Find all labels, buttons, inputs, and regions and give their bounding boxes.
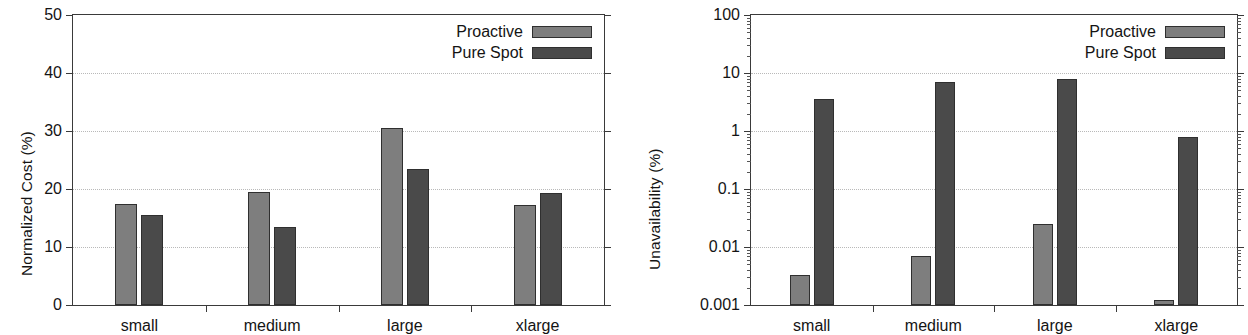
y-axis-minor-tick-right [1237, 140, 1241, 141]
y-axis-tick-right [1237, 131, 1244, 132]
gridline [73, 189, 604, 190]
y-axis-minor-tick-right [1237, 202, 1241, 203]
y-axis-tick-right [604, 189, 611, 190]
legend-swatch-proactive [1165, 26, 1225, 38]
y-axis-minor-tick [747, 137, 751, 138]
y-axis-tick [744, 189, 751, 190]
y-axis-minor-tick-right [1237, 82, 1241, 83]
y-axis-minor-tick [747, 172, 751, 173]
bar-large-pure-spot [1057, 79, 1077, 305]
bar-large-proactive [1033, 224, 1053, 305]
y-axis-minor-tick-right [1237, 114, 1241, 115]
bar-small-pure-spot [141, 215, 163, 305]
y-axis-minor-tick-right [1237, 148, 1241, 149]
y-axis-minor-tick [747, 79, 751, 80]
gridline [751, 73, 1237, 74]
y-axis-minor-tick-right [1237, 288, 1241, 289]
y-axis-tick-label: 0.1 [718, 180, 740, 198]
y-axis-minor-tick [747, 82, 751, 83]
y-axis-minor-tick-right [1237, 56, 1241, 57]
y-axis-minor-tick [747, 45, 751, 46]
y-axis-minor-tick-right [1237, 212, 1241, 213]
x-axis-tick-label: xlarge [516, 317, 560, 335]
y-axis-tick [66, 73, 73, 74]
bar-large-proactive [381, 128, 403, 305]
x-axis-tick-label: medium [244, 317, 301, 335]
y-axis-minor-tick [747, 134, 751, 135]
bar-small-proactive [115, 204, 137, 306]
y-axis-tick-label: 0.001 [700, 296, 740, 314]
y-axis-minor-tick-right [1237, 45, 1241, 46]
y-axis-tick [744, 15, 751, 16]
bar-xlarge-proactive [514, 205, 536, 305]
legend-unavailability: Proactive Pure Spot [1085, 23, 1225, 62]
x-axis-tick [994, 305, 995, 312]
gridline [73, 131, 604, 132]
y-axis-minor-tick [747, 250, 751, 251]
y-axis-minor-tick-right [1237, 195, 1241, 196]
y-axis-tick-right [604, 305, 611, 306]
y-axis-minor-tick-right [1237, 277, 1241, 278]
y-axis-minor-tick [747, 195, 751, 196]
x-axis-tick-label: xlarge [1154, 317, 1198, 335]
y-axis-minor-tick [747, 161, 751, 162]
chart-panel-unavailability: Unavailability (%) Proactive Pure Spot 0… [624, 0, 1248, 332]
bar-medium-proactive [248, 192, 270, 305]
y-axis-minor-tick [747, 288, 751, 289]
y-axis-minor-tick-right [1237, 256, 1241, 257]
y-axis-minor-tick-right [1237, 28, 1241, 29]
y-axis-tick-right [1237, 247, 1244, 248]
y-axis-minor-tick-right [1237, 253, 1241, 254]
y-axis-minor-tick [747, 253, 751, 254]
chart-panel-normalized-cost: Normalized Cost (%) Proactive Pure Spot … [0, 0, 624, 332]
y-axis-tick [66, 189, 73, 190]
legend-label-pure-spot: Pure Spot [1085, 44, 1156, 62]
legend-normalized-cost: Proactive Pure Spot [452, 23, 592, 62]
legend-entry-pure-spot: Pure Spot [452, 44, 592, 62]
legend-swatch-pure-spot [532, 47, 592, 59]
y-axis-tick-label: 10 [722, 64, 740, 82]
y-axis-minor-tick [747, 24, 751, 25]
legend-entry-pure-spot: Pure Spot [1085, 44, 1225, 62]
y-axis-minor-tick-right [1237, 270, 1241, 271]
x-axis-tick-label: large [1037, 317, 1073, 335]
y-axis-tick-label: 0.01 [709, 238, 740, 256]
y-axis-tick-label: 30 [44, 122, 62, 140]
y-axis-minor-tick [747, 219, 751, 220]
y-axis-minor-tick-right [1237, 18, 1241, 19]
x-axis-tick-label: large [387, 317, 423, 335]
y-axis-minor-tick [747, 38, 751, 39]
y-axis-minor-tick-right [1237, 103, 1241, 104]
y-axis-tick-label: 40 [44, 64, 62, 82]
y-axis-tick-right [604, 73, 611, 74]
y-axis-minor-tick-right [1237, 134, 1241, 135]
legend-label-proactive: Proactive [456, 23, 523, 41]
legend-swatch-proactive [532, 26, 592, 38]
y-axis-minor-tick [747, 32, 751, 33]
y-axis-minor-tick [747, 21, 751, 22]
y-axis-tick-label: 1 [731, 122, 740, 140]
y-axis-minor-tick-right [1237, 206, 1241, 207]
y-axis-minor-tick [747, 103, 751, 104]
y-axis-minor-tick-right [1237, 96, 1241, 97]
y-axis-minor-tick [747, 96, 751, 97]
y-axis-tick [744, 305, 751, 306]
y-axis-tick-label: 100 [713, 6, 740, 24]
y-axis-tick [66, 305, 73, 306]
y-axis-minor-tick-right [1237, 21, 1241, 22]
y-axis-minor-tick [747, 18, 751, 19]
y-axis-minor-tick [747, 144, 751, 145]
y-axis-minor-tick [747, 256, 751, 257]
y-axis-minor-tick [747, 212, 751, 213]
bar-xlarge-pure-spot [1178, 137, 1198, 305]
y-axis-minor-tick-right [1237, 250, 1241, 251]
bar-medium-pure-spot [935, 82, 955, 305]
y-axis-minor-tick-right [1237, 198, 1241, 199]
y-axis-minor-tick-right [1237, 219, 1241, 220]
y-axis-tick-right [1237, 73, 1244, 74]
y-axis-minor-tick-right [1237, 144, 1241, 145]
y-axis-minor-tick-right [1237, 86, 1241, 87]
legend-label-pure-spot: Pure Spot [452, 44, 523, 62]
legend-label-proactive: Proactive [1089, 23, 1156, 41]
y-axis-minor-tick-right [1237, 230, 1241, 231]
